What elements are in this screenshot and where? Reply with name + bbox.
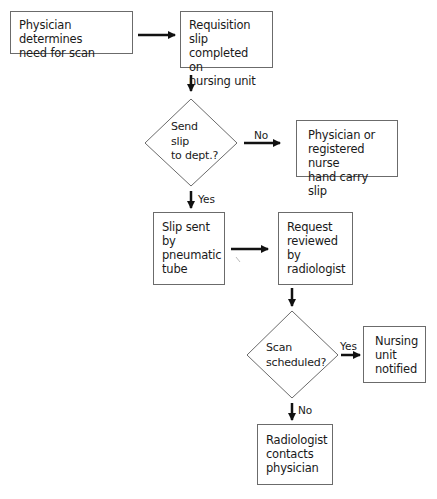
edge-label-yes-1: Yes xyxy=(198,193,215,205)
node-pneumatic-tube: Slip sent by pneumatic tube xyxy=(153,212,225,285)
decision-text-scan-scheduled: Scan scheduled? xyxy=(266,341,326,370)
node-request-reviewed: Request reviewed by radiologist xyxy=(278,212,353,285)
edge-label-no-1: No xyxy=(254,129,268,141)
node-hand-carry: Physician or registered nurse hand carry… xyxy=(296,120,398,177)
stray-mark xyxy=(236,257,240,262)
edge-label-yes-2: Yes xyxy=(340,340,357,352)
node-physician-determines: Physician determines need for scan xyxy=(10,11,133,54)
node-radiologist-contacts: Radiologist contacts physician xyxy=(257,424,333,485)
edge-label-no-2: No xyxy=(298,404,312,416)
decision-text-send-slip: Send slip to dept.? xyxy=(171,120,218,164)
node-requisition-slip: Requisition slip completed on nursing un… xyxy=(180,11,273,68)
node-nursing-notified: Nursing unit notified xyxy=(363,326,426,383)
